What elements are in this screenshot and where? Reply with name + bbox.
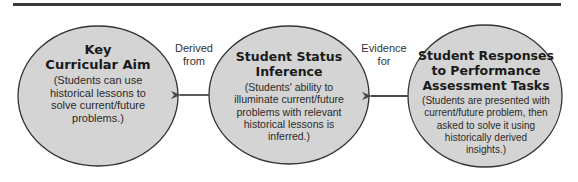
node-description: (Students' ability to illuminate current… — [234, 81, 344, 142]
node-title: Key Curricular Aim — [45, 42, 150, 72]
node-desc-line: problems with relevant — [234, 106, 344, 118]
edge-label-line: from — [172, 55, 216, 68]
node-description: (Students are presented with current/fut… — [422, 95, 550, 156]
edge-label-evidence-for: Evidence for — [356, 42, 412, 68]
node-title-line: Inference — [236, 64, 342, 79]
node-desc-line: (Students can use — [50, 74, 146, 87]
node-title: Student Responses to Performance Assessm… — [418, 48, 554, 93]
node-desc-line: solve current/future — [50, 99, 146, 112]
node-desc-line: problems.) — [50, 112, 146, 125]
node-desc-line: historically derived — [422, 132, 550, 144]
node-desc-line: historical lessons is — [234, 118, 344, 130]
edge-label-line: Derived — [172, 42, 216, 55]
node-title-line: Student Status — [236, 49, 342, 64]
node-desc-line: inferred.) — [234, 130, 344, 142]
node-desc-line: insights.) — [422, 144, 550, 156]
node-student-responses: Student Responses to Performance Assessm… — [408, 48, 564, 156]
node-desc-line: illuminate current/future — [234, 93, 344, 105]
node-desc-line: (Students are presented with — [422, 95, 550, 107]
node-key-curricular-aim: Key Curricular Aim (Students can use his… — [30, 42, 166, 124]
node-desc-line: historical lessons to — [50, 87, 146, 100]
edge-label-derived-from: Derived from — [172, 42, 216, 68]
node-title-line: Key — [45, 42, 150, 57]
node-title-line: Curricular Aim — [45, 57, 150, 72]
node-title-line: Student Responses — [418, 48, 554, 63]
node-description: (Students can use historical lessons to … — [50, 74, 146, 124]
node-desc-line: (Students' ability to — [234, 81, 344, 93]
edge-label-line: Evidence — [356, 42, 412, 55]
node-title-line: Assessment Tasks — [418, 78, 554, 93]
node-desc-line: asked to solve it using — [422, 120, 550, 132]
node-title: Student Status Inference — [236, 49, 342, 79]
edge-label-line: for — [356, 55, 412, 68]
node-student-status-inference: Student Status Inference (Students' abil… — [214, 49, 364, 142]
node-title-line: to Performance — [418, 63, 554, 78]
node-desc-line: current/future problem, then — [422, 107, 550, 119]
